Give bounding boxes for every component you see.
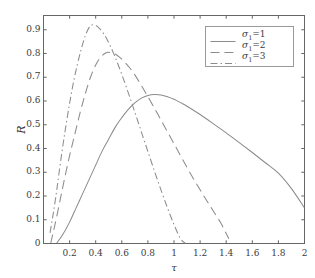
legend-line-swatch <box>210 42 236 51</box>
y-tick-label: 0.1 <box>26 214 40 224</box>
x-tick-label: 1.2 <box>186 248 214 258</box>
legend-line-swatch <box>210 53 236 62</box>
legend-label: σ1=3 <box>242 51 266 64</box>
x-tick-label: 1.6 <box>238 248 266 258</box>
x-tick-label: 1.4 <box>212 248 240 258</box>
series-line-1 <box>57 95 305 244</box>
y-tick-label: 0.5 <box>26 119 40 129</box>
series-line-3 <box>50 25 186 244</box>
x-tick-label: 0.6 <box>108 248 136 258</box>
y-axis-label: R <box>15 122 28 136</box>
chart-legend: σ1=1σ1=2σ1=3 <box>205 26 294 67</box>
x-tick-label: 0.4 <box>82 248 110 258</box>
x-tick-label: 0.2 <box>56 248 84 258</box>
y-tick-label: 0.2 <box>26 190 40 200</box>
chart-page: 00.10.20.30.40.50.60.70.80.9 0.20.40.60.… <box>0 0 314 278</box>
y-tick-label: 0.4 <box>26 143 40 153</box>
x-tick-label: 0.8 <box>134 248 162 258</box>
legend-line-swatch <box>210 31 236 40</box>
x-tick-label: 1.8 <box>264 248 292 258</box>
y-tick-label: 0 <box>35 238 41 248</box>
x-tick-label: 1 <box>160 248 188 258</box>
y-tick-label: 0.3 <box>26 166 40 176</box>
y-tick-label: 0.6 <box>26 95 40 105</box>
x-tick-label: 2 <box>291 248 315 258</box>
series-line-2 <box>51 52 229 243</box>
legend-item: σ1=3 <box>210 52 288 63</box>
y-tick-label: 0.9 <box>26 24 40 34</box>
y-tick-label: 0.7 <box>26 71 40 81</box>
y-tick-label: 0.8 <box>26 48 40 58</box>
x-axis-label: τ <box>154 262 194 273</box>
